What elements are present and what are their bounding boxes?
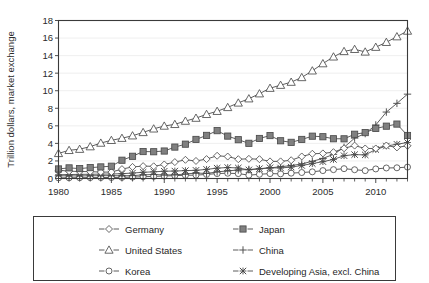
y-tick-label: 10 [42, 85, 53, 96]
data-point-square [362, 129, 368, 135]
data-point-diamond [171, 159, 178, 166]
data-point-square [277, 138, 283, 144]
data-point-square [267, 132, 273, 138]
data-point-square [172, 144, 178, 150]
data-point-diamond [319, 150, 326, 157]
data-point-diamond [277, 158, 284, 165]
data-point-circle [383, 165, 389, 171]
data-point-diamond [106, 226, 113, 233]
data-point-square [140, 148, 146, 154]
data-point-circle [330, 167, 336, 173]
data-point-triangle [308, 67, 316, 74]
data-point-diamond [140, 163, 147, 170]
data-point-circle [352, 167, 358, 173]
y-tick-label: 2 [48, 155, 53, 166]
data-point-circle [309, 169, 315, 175]
line-chart: 0246810121416181980198519901995200020052… [0, 0, 429, 283]
data-point-triangle [329, 53, 337, 60]
data-point-diamond [224, 153, 231, 160]
data-point-diamond [267, 158, 274, 165]
data-point-diamond [192, 157, 199, 164]
data-point-diamond [129, 163, 136, 170]
data-point-triangle [372, 43, 380, 50]
data-point-square [182, 141, 188, 147]
data-point-triangle [245, 95, 253, 102]
legend-label: United States [125, 245, 182, 256]
data-point-square [256, 135, 262, 141]
x-tick-label: 2000 [259, 186, 280, 197]
y-tick-label: 0 [48, 173, 53, 184]
data-point-diamond [235, 156, 242, 163]
data-point-triangle [298, 73, 306, 80]
series-layer [54, 27, 411, 181]
legend-item-developing-asia-excl-china[interactable]: Developing Asia, excl. China [233, 266, 380, 277]
data-point-square [66, 165, 72, 171]
chart-page: 0246810121416181980198519901995200020052… [0, 0, 429, 283]
legend-label: China [259, 245, 285, 256]
legend-label: Korea [125, 266, 151, 277]
legend-label: Germany [125, 224, 164, 235]
data-point-square [214, 128, 220, 134]
data-point-diamond [256, 156, 263, 163]
data-point-triangle [224, 103, 232, 110]
data-point-square [394, 121, 400, 127]
y-tick-label: 16 [42, 32, 53, 43]
x-tick-label: 1980 [48, 186, 69, 197]
data-point-x [240, 268, 247, 275]
data-point-diamond [182, 156, 189, 163]
legend-item-germany[interactable]: Germany [99, 224, 164, 235]
data-point-square [225, 133, 231, 139]
data-point-diamond [309, 150, 316, 157]
data-point-plus [298, 160, 305, 167]
data-point-square [129, 153, 135, 159]
y-axis-title: Trillion dollars, market exchange [5, 31, 16, 167]
data-point-circle [362, 168, 368, 174]
legend-item-japan[interactable]: Japan [233, 224, 285, 235]
data-point-square [98, 164, 104, 170]
legend-item-china[interactable]: China [233, 245, 285, 256]
data-point-x [351, 151, 358, 158]
data-point-triangle [192, 114, 200, 121]
y-tick-label: 14 [42, 50, 53, 61]
data-point-circle [288, 170, 294, 176]
data-point-triangle [351, 45, 359, 52]
data-point-square [203, 132, 209, 138]
data-point-diamond [362, 145, 369, 152]
data-point-diamond [203, 156, 210, 163]
data-point-square [299, 136, 305, 142]
data-point-diamond [341, 145, 348, 152]
x-tick-label: 1990 [154, 186, 175, 197]
data-point-square [246, 140, 252, 146]
data-point-circle [299, 170, 305, 176]
x-tick-label: 2010 [365, 186, 386, 197]
data-point-triangle [105, 246, 113, 253]
legend-item-korea[interactable]: Korea [99, 266, 151, 277]
data-point-circle [341, 166, 347, 172]
y-tick-label: 18 [42, 15, 53, 26]
y-tick-label: 8 [48, 103, 53, 114]
data-point-square [341, 136, 347, 142]
data-point-circle [373, 166, 379, 172]
data-point-square [320, 134, 326, 140]
data-point-square [108, 163, 114, 169]
data-point-triangle [287, 78, 295, 85]
x-tick-label: 2005 [312, 186, 333, 197]
legend-label: Developing Asia, excl. China [259, 266, 380, 277]
data-point-square [161, 148, 167, 154]
y-tick-label: 4 [48, 138, 53, 149]
data-point-circle [320, 168, 326, 174]
y-axis-title-text: Trillion dollars, market exchange [5, 31, 16, 167]
x-tick-label: 1985 [101, 186, 122, 197]
data-point-triangle [139, 128, 147, 135]
data-point-square [235, 137, 241, 143]
data-point-square [352, 131, 358, 137]
data-point-triangle [234, 99, 242, 106]
data-point-diamond [161, 161, 168, 168]
data-point-diamond [298, 153, 305, 160]
data-point-square [330, 136, 336, 142]
data-point-diamond [288, 157, 295, 164]
legend-item-united-states[interactable]: United States [99, 245, 182, 256]
data-point-triangle [382, 38, 390, 45]
data-point-square [373, 125, 379, 131]
y-tick-label: 12 [42, 68, 53, 79]
